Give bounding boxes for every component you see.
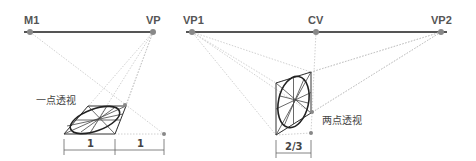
measure-point bbox=[309, 131, 313, 135]
one-point-title: 一点透视 bbox=[36, 94, 76, 106]
dimension-label: 2/3 bbox=[285, 141, 303, 152]
m1-point bbox=[27, 29, 33, 35]
cv-point bbox=[313, 29, 319, 35]
perspective-diagram: M1 VP 一点透视 1 1 bbox=[0, 0, 476, 161]
dimension-label-1: 1 bbox=[87, 138, 94, 149]
guide-lines bbox=[192, 32, 441, 135]
dimension-line bbox=[64, 139, 164, 155]
vp2-label: VP2 bbox=[431, 14, 452, 26]
two-point-title: 两点透视 bbox=[322, 114, 362, 126]
corner-point bbox=[310, 110, 314, 114]
measure-point bbox=[162, 132, 166, 136]
vp1-label: VP1 bbox=[183, 14, 204, 26]
vp2-point bbox=[438, 29, 444, 35]
dimension-label-2: 1 bbox=[137, 138, 144, 149]
vp-label: VP bbox=[146, 14, 161, 26]
vp-point bbox=[150, 29, 156, 35]
vp1-point bbox=[189, 29, 195, 35]
cv-label: CV bbox=[308, 14, 324, 26]
one-point-perspective: M1 VP 一点透视 1 1 bbox=[24, 14, 166, 155]
corner-point bbox=[123, 103, 127, 107]
m1-label: M1 bbox=[24, 14, 39, 26]
two-point-perspective: VP1 CV VP2 两点透视 2/3 bbox=[183, 14, 452, 158]
